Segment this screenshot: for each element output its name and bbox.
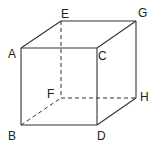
edge-CG (97, 21, 136, 48)
label-C: C (98, 49, 107, 63)
label-E: E (61, 7, 69, 21)
solid-edges (21, 21, 136, 125)
label-D: D (97, 129, 106, 143)
edge-AE (21, 21, 61, 48)
label-G: G (138, 6, 147, 20)
label-A: A (8, 47, 16, 61)
edge-DH (97, 98, 136, 125)
edge-BF (21, 98, 61, 125)
cube-svg: A B C D E F G H (0, 0, 157, 151)
cube-diagram: A B C D E F G H (0, 0, 157, 151)
label-H: H (140, 90, 149, 104)
label-F: F (47, 87, 54, 101)
label-B: B (8, 129, 16, 143)
